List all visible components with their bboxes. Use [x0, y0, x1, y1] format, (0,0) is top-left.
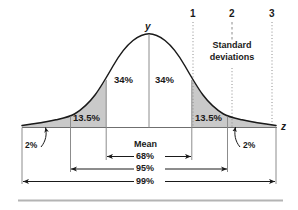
region-label-2-left: 2%	[25, 141, 37, 151]
band-label-68: 68%	[136, 151, 154, 161]
region-label-2-right: 2%	[243, 141, 255, 151]
region-label-34-right: 34%	[155, 75, 174, 86]
sigma-tick-label-1: 1	[190, 8, 196, 19]
region-label-13-5-right: 13.5%	[195, 113, 222, 124]
mean-label: Mean	[134, 139, 157, 149]
tail-left-leader-arrow	[41, 128, 46, 148]
sigma-tick-label-2: 2	[229, 8, 235, 19]
sigma-tick-label-3: 3	[269, 8, 275, 19]
band-label-95: 95%	[136, 163, 154, 173]
standard-deviations-caption-line2: deviations	[200, 52, 264, 62]
z-axis-label: z	[281, 121, 286, 132]
y-axis-label: y	[145, 21, 151, 32]
band-label-99: 99%	[136, 176, 154, 186]
region-label-13-5-left: 13.5%	[73, 113, 100, 124]
tail-right-leader-arrow	[235, 127, 240, 147]
standard-deviations-caption-line1: Standard	[200, 40, 264, 50]
bell-curve-figure: 1 2 3 Standard deviations y z 34% 34% 13…	[0, 0, 298, 210]
region-label-34-left: 34%	[114, 75, 133, 86]
